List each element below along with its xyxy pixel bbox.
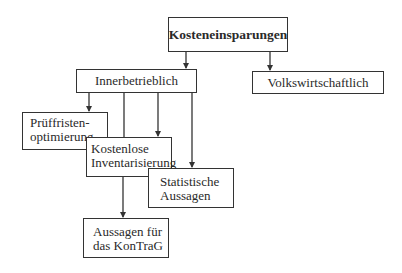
node-label: Innerbetrieblich (95, 74, 178, 88)
node-kosteneinsparungen: Kosteneinsparungen (168, 17, 288, 52)
node-innerbetrieblich: Innerbetrieblich (76, 69, 197, 93)
node-label-line1: Aussagen für (93, 225, 162, 239)
node-label: Volkswirtschaftlich (268, 76, 369, 90)
node-label-line2: optimierung (30, 130, 94, 144)
node-statistische-aussagen: Statistische Aussagen (148, 168, 234, 208)
node-label: Kosteneinsparungen (169, 28, 288, 42)
node-aussagen-kontrag: Aussagen für das KonTraG (83, 218, 169, 258)
node-label-line2: Aussagen (160, 189, 211, 203)
node-label-line2: das KonTraG (93, 239, 163, 253)
node-label-line1: Prüffristen- (30, 116, 90, 130)
node-label-line1: Kostenlose (91, 142, 149, 156)
node-volkswirtschaftlich: Volkswirtschaftlich (252, 71, 384, 94)
node-label-line1: Statistische (160, 175, 219, 189)
